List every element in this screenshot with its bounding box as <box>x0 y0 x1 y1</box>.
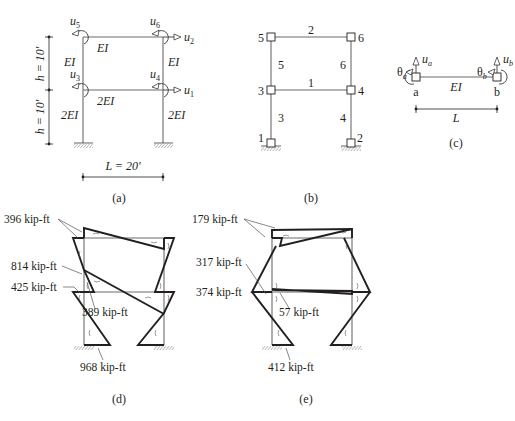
element-label-5: 5 <box>278 58 284 72</box>
node-b <box>493 73 501 81</box>
panel-caption-c: (c) <box>449 136 462 150</box>
panel-c-beam-element: θa θb ua ub a b EI L (c) <box>397 52 513 150</box>
node-2 <box>347 139 355 147</box>
translation-arrow-icon <box>163 87 181 93</box>
panel-caption-b: (b) <box>304 191 318 205</box>
panel-caption-e: (e) <box>299 392 312 406</box>
node-label-2: 2 <box>357 131 363 145</box>
node-label-b: b <box>494 85 500 99</box>
fixed-support-icon <box>154 346 174 350</box>
moment-label-317: 317 kip-ft <box>196 256 242 269</box>
node-label-5: 5 <box>258 31 264 45</box>
element-label-2: 2 <box>308 23 314 37</box>
stiffness-label-lower-right-column: 2EI <box>168 108 186 122</box>
moment-label-412: 412 kip-ft <box>268 361 314 374</box>
node-1 <box>267 139 275 147</box>
panel-caption-a: (a) <box>112 191 125 205</box>
panel-a-frame-dofs: u5 u6 u3 u4 u2 u1 EI 2EI EI EI 2EI 2EI h… <box>33 14 194 205</box>
dimension-label-span: L = 20′ <box>104 159 141 173</box>
stiffness-label-bottom-beam: 2EI <box>97 94 115 108</box>
stiffness-label-upper-right-column: EI <box>167 55 180 69</box>
moment-label-814: 814 kip-ft <box>11 260 57 273</box>
dof-label-u5: u5 <box>70 14 80 30</box>
node-label-6: 6 <box>358 31 364 45</box>
moment-label-425: 425 kip-ft <box>11 281 57 294</box>
node-5 <box>267 33 275 41</box>
dof-label-u2: u2 <box>184 30 194 46</box>
node-3 <box>267 86 275 94</box>
rotation-label-theta-b: θb <box>477 65 487 81</box>
fixed-support-icon <box>154 143 173 148</box>
dof-label-u6: u6 <box>150 14 160 30</box>
moment-label-389: 389 kip-ft <box>82 306 128 319</box>
dimension-label-span: L <box>452 111 460 125</box>
stiffness-label-upper-left-column: EI <box>63 55 76 69</box>
element-label-3: 3 <box>278 111 284 125</box>
fixed-support-icon <box>74 143 93 148</box>
displacement-label-u-a: ua <box>422 52 432 68</box>
moment-label-57: 57 kip-ft <box>279 306 320 319</box>
dof-label-u4: u4 <box>150 67 160 83</box>
stiffness-label-top-beam: EI <box>96 41 109 55</box>
moment-label-179: 179 kip-ft <box>192 213 238 226</box>
element-label-4: 4 <box>340 111 346 125</box>
node-a <box>412 73 420 81</box>
rotation-label-theta-a: θa <box>397 65 407 81</box>
dof-label-u1: u1 <box>184 83 194 99</box>
node-label-3: 3 <box>258 84 264 98</box>
panel-d-moment-diagram: 396 kip-ft 814 kip-ft 425 kip-ft 389 kip… <box>4 213 174 406</box>
displacement-label-u-b: ub <box>503 52 513 68</box>
moment-label-374: 374 kip-ft <box>196 286 242 299</box>
dimension-label-h-lower: h = 10′ <box>33 99 47 134</box>
panel-e-moment-diagram: 179 kip-ft 317 kip-ft 374 kip-ft 57 kip-… <box>192 213 370 406</box>
node-6 <box>347 33 355 41</box>
element-label-6: 6 <box>340 58 346 72</box>
dimension-label-h-upper: h = 10′ <box>33 46 47 81</box>
stiffness-label-lower-left-column: 2EI <box>61 108 79 122</box>
translation-arrow-icon <box>163 34 181 40</box>
fixed-support-icon <box>262 346 282 350</box>
element-label-1: 1 <box>308 76 314 90</box>
node-label-a: a <box>413 85 419 99</box>
node-label-4: 4 <box>358 84 364 98</box>
moment-label-396: 396 kip-ft <box>4 213 50 226</box>
fixed-support-icon <box>342 346 362 350</box>
dof-label-u3: u3 <box>70 67 80 83</box>
node-4 <box>347 86 355 94</box>
stiffness-label: EI <box>449 80 462 94</box>
panel-b-element-numbering: 5 6 3 4 1 2 2 1 5 6 3 4 (b) <box>258 23 364 205</box>
structural-frame-figure: u5 u6 u3 u4 u2 u1 EI 2EI EI EI 2EI 2EI h… <box>0 0 515 421</box>
node-label-1: 1 <box>258 131 264 145</box>
fixed-support-icon <box>74 346 94 350</box>
panel-caption-d: (d) <box>112 392 126 406</box>
moment-label-968: 968 kip-ft <box>80 361 126 374</box>
